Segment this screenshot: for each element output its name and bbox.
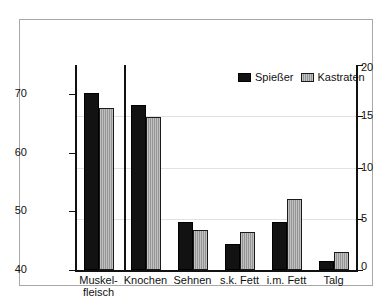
bar [272, 222, 287, 270]
bar [225, 244, 240, 270]
right-axis-tick-label: 5 [361, 213, 367, 224]
gridline [75, 168, 357, 169]
left-axis-tick-mark [69, 153, 75, 154]
bar [178, 222, 193, 270]
gridline [75, 116, 357, 117]
chart-legend: Spießer Kastraten [238, 71, 365, 83]
bar [287, 199, 302, 270]
gray-hatched-square-swatch [301, 73, 314, 82]
bar [131, 105, 146, 270]
category-label: Sehnen [169, 274, 216, 286]
legend-entry-spiesser[interactable]: Spießer [238, 71, 294, 83]
left-axis-tick-label: 50 [15, 205, 27, 216]
category-label: Knochen [122, 274, 169, 286]
left-axis-line [75, 65, 77, 271]
category-label: s.k. Fett [216, 274, 263, 286]
chart-figure: 40506070 05101520 Muskel- fleischKnochen… [0, 0, 392, 306]
left-axis-tick-label: 60 [15, 147, 27, 158]
legend-entry-kastraten[interactable]: Kastraten [301, 71, 365, 83]
axis-divider-line [124, 65, 126, 271]
right-axis-tick-label: 10 [361, 162, 373, 173]
left-axis-tick-label: 40 [15, 264, 27, 275]
bar [319, 261, 334, 270]
bar [84, 93, 99, 270]
right-axis-tick-label: 15 [361, 110, 373, 121]
bar [99, 108, 114, 270]
black-square-swatch [238, 73, 251, 82]
legend-label: Spießer [255, 71, 294, 83]
bar [193, 230, 208, 270]
right-axis-tick-label: 0 [361, 261, 367, 272]
legend-label: Kastraten [318, 71, 365, 83]
category-axis-line [75, 270, 358, 272]
bar [240, 232, 255, 270]
category-label: Muskel- fleisch [75, 274, 122, 298]
plot-area [75, 65, 357, 270]
chart-frame: 40506070 05101520 Muskel- fleischKnochen… [19, 19, 373, 286]
category-label: i.m. Fett [263, 274, 310, 286]
gridline [75, 219, 357, 220]
left-axis-tick-mark [69, 94, 75, 95]
left-axis-tick-label: 70 [15, 88, 27, 99]
left-axis-tick-mark [69, 270, 75, 271]
bar [334, 252, 349, 270]
left-axis-tick-mark [69, 211, 75, 212]
bar [146, 117, 161, 270]
category-label: Talg [310, 274, 357, 286]
